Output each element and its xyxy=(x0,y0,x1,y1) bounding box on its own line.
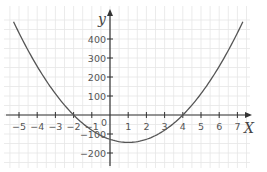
x-tick-label: −5 xyxy=(12,121,26,132)
grid-lines xyxy=(4,6,250,168)
x-tick-label: −3 xyxy=(48,121,62,132)
x-axis-label: X xyxy=(243,120,255,136)
y-axis-label: y xyxy=(97,11,107,27)
y-tick-label: −200 xyxy=(80,148,106,159)
x-tick-label: 6 xyxy=(216,121,222,132)
origin-label: 0 xyxy=(101,117,107,128)
x-axis-arrow-icon xyxy=(245,112,252,118)
x-tick-label: 4 xyxy=(180,121,186,132)
y-tick-label: 300 xyxy=(88,53,106,64)
y-axis-arrow-icon xyxy=(107,9,113,16)
x-tick-label: 7 xyxy=(234,121,240,132)
x-tick-label: 5 xyxy=(198,121,204,132)
x-tick-label: −4 xyxy=(30,121,44,132)
parabola-chart: X y 0 −5−4−3−2−11234567−200−100100200300… xyxy=(0,0,267,172)
y-tick-label: 400 xyxy=(88,34,106,45)
y-tick-label: −100 xyxy=(80,129,106,140)
x-tick-label: 2 xyxy=(143,121,149,132)
x-tick-label: 1 xyxy=(125,121,131,132)
y-tick-label: 100 xyxy=(88,91,106,102)
x-tick-label: −2 xyxy=(67,121,81,132)
y-tick-label: 200 xyxy=(88,72,106,83)
